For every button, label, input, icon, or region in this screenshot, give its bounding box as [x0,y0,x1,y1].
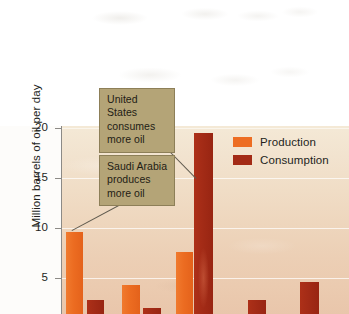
callout-sa-line2: produces [107,173,168,186]
y-tick-label: 5 [14,272,48,284]
bar-consumption [248,300,266,314]
bar-production [122,285,140,314]
y-axis-line [61,126,62,314]
legend-label-production: Production [260,136,316,148]
bar-production [66,232,83,314]
scan-blotch [198,248,209,308]
y-tick-mark [55,128,62,129]
bar-consumption [300,282,319,314]
chart-figure: 2015105 Million barrels of oil per day P… [0,0,349,314]
callout-saudi-arabia: Saudi Arabia produces more oil [99,155,175,206]
bar-production [176,252,193,314]
legend-item-consumption: Consumption [233,152,329,168]
callout-us-line2: consumes [107,120,168,133]
legend-swatch-production-icon [233,137,252,147]
bar-consumption [87,300,104,314]
bar-consumption [143,308,161,314]
callout-us-line1: United States [107,93,168,120]
legend-label-consumption: Consumption [260,154,329,166]
callout-united-states: United States consumes more oil [99,88,175,153]
y-tick-mark [55,278,62,279]
legend-item-production: Production [233,134,329,150]
callout-sa-line3: more oil [107,187,168,200]
y-axis-title: Million barrels of oil per day [30,56,42,256]
legend: Production Consumption [233,134,329,170]
y-tick-mark [55,228,62,229]
callout-sa-line1: Saudi Arabia [107,160,168,173]
callout-us-line3: more oil [107,133,168,146]
legend-swatch-consumption-icon [233,155,252,165]
y-tick-mark [55,178,62,179]
bar-consumption [194,133,213,314]
